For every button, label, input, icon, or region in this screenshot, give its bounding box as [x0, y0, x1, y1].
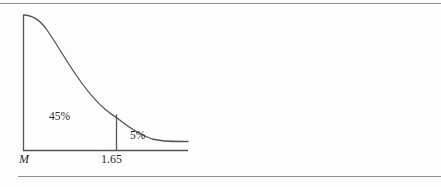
- area-label-5-percent: 5%: [130, 130, 145, 142]
- axis-label-critical-value: 1.65: [101, 153, 122, 165]
- area-label-45-percent: 45%: [49, 111, 70, 123]
- distribution-figure: 45% 5% M 1.65: [0, 0, 441, 187]
- axis-label-mean: M: [19, 153, 29, 165]
- normal-distribution-curve: [24, 15, 189, 142]
- normal-curve-plot: [0, 0, 441, 187]
